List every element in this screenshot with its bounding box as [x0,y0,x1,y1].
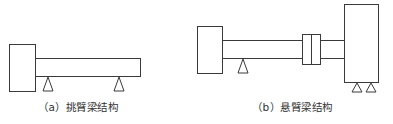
a-support-right-icon [114,77,124,91]
b-support-icon [238,59,248,73]
diagram-b [198,5,379,93]
a-motor-block [10,45,36,92]
diagram-a [10,45,141,92]
b-base-support-left-icon [352,83,362,92]
b-motor-block [198,27,223,74]
a-support-left-icon [43,77,53,91]
b-shaft [223,41,345,59]
caption-a: （a）挑臂梁结构 [38,99,118,114]
caption-b: （b）悬臂梁结构 [252,99,333,114]
b-base-support-right-icon [366,83,376,92]
b-housing-block [345,5,379,83]
a-beam [36,59,141,77]
